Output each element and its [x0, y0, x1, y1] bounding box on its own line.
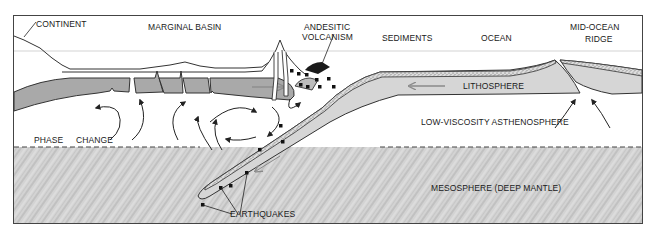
label-asthenosphere: LOW-VISCOSITY ASTHENOSPHERE: [421, 117, 569, 127]
label-ridge: RIDGE: [585, 34, 612, 44]
label-volcanism: VOLCANISM: [302, 32, 353, 42]
label-marginal-basin: MARGINAL BASIN: [148, 22, 221, 32]
label-earthquakes: EARTHQUAKES: [230, 209, 295, 219]
rift-block-3: [183, 78, 210, 93]
label-change: CHANGE: [76, 135, 113, 145]
label-mesosphere: MESOSPHERE (DEEP MANTLE): [431, 183, 561, 193]
label-ocean: OCEAN: [481, 33, 512, 43]
label-continent: CONTINENT: [36, 19, 86, 29]
label-sediments: SEDIMENTS: [382, 33, 433, 43]
label-lithosphere: LITHOSPHERE: [463, 81, 524, 91]
label-mid-ocean: MID-OCEAN: [570, 22, 620, 32]
label-andesitic: ANDESITIC: [304, 22, 350, 32]
label-phase: PHASE: [34, 135, 63, 145]
